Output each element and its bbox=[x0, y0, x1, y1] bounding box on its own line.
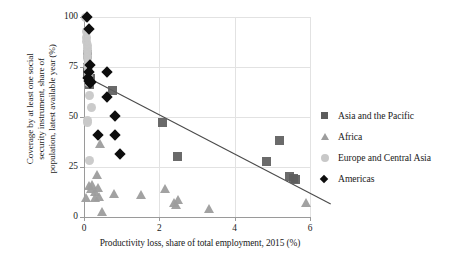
y-tick-label: 0 bbox=[51, 211, 78, 221]
legend-item-label: Americas bbox=[338, 173, 374, 184]
chart-legend: Asia and the PacificAfricaEurope and Cen… bbox=[318, 105, 468, 189]
legend-item-label: Europe and Central Asia bbox=[338, 152, 431, 163]
y-tick-label: 25 bbox=[51, 161, 78, 171]
triangle-marker-icon bbox=[318, 130, 334, 144]
legend-item-triangle[interactable]: Africa bbox=[318, 126, 468, 147]
x-axis-title: Productivity loss, share of total employ… bbox=[40, 238, 360, 248]
diamond-marker-icon bbox=[318, 172, 334, 186]
legend-item-label: Asia and the Pacific bbox=[338, 110, 414, 121]
circle-marker-icon bbox=[318, 151, 334, 165]
triangle-shape bbox=[321, 133, 329, 140]
y-tick-label: 100 bbox=[51, 11, 78, 21]
square-shape bbox=[321, 112, 328, 119]
legend-item-diamond[interactable]: Americas bbox=[318, 168, 468, 189]
plot-area: 02460255075100 bbox=[84, 17, 310, 217]
legend-item-label: Africa bbox=[338, 131, 362, 142]
diamond-shape bbox=[320, 174, 328, 182]
y-tick-label: 50 bbox=[51, 111, 78, 121]
y-tick-label: 75 bbox=[51, 61, 78, 71]
legend-item-square[interactable]: Asia and the Pacific bbox=[318, 105, 468, 126]
legend-item-circle[interactable]: Europe and Central Asia bbox=[318, 147, 468, 168]
circle-shape bbox=[321, 154, 329, 162]
scatter-chart-figure: Coverage by at least one social security… bbox=[0, 0, 472, 263]
square-marker-icon bbox=[318, 109, 334, 123]
y-axis-title: Coverage by at least one social security… bbox=[25, 4, 59, 214]
